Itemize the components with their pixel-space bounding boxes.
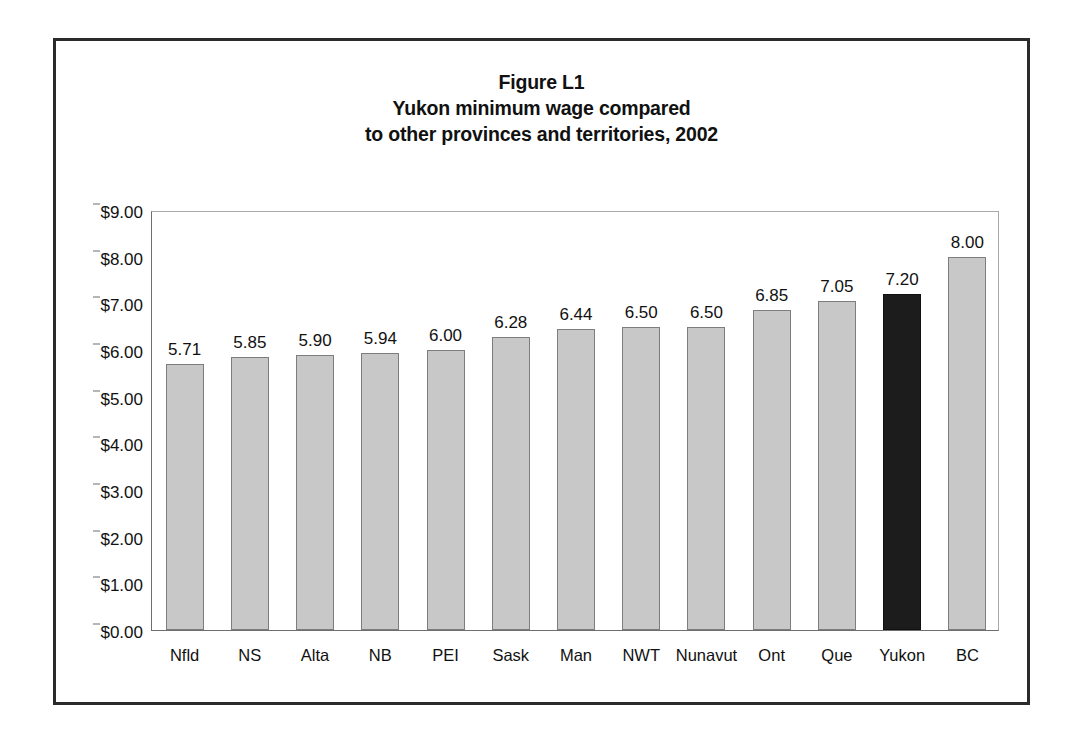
bar-series: 5.71Nfld5.85NS5.90Alta5.94NB6.00PEI6.28S… bbox=[152, 212, 998, 630]
chart-title-line-2: Yukon minimum wage compared bbox=[56, 95, 1027, 121]
bar[interactable] bbox=[427, 350, 465, 630]
bar-value-label: 7.20 bbox=[886, 271, 919, 288]
bar-group: 6.50Nunavut bbox=[674, 212, 739, 630]
x-axis-category-label: NWT bbox=[622, 647, 660, 664]
bar-value-label: 5.90 bbox=[299, 332, 332, 349]
bar-group: 7.20Yukon bbox=[870, 212, 935, 630]
x-axis-category-label: Nunavut bbox=[676, 647, 737, 664]
figure-page-frame: Figure L1 Yukon minimum wage compared to… bbox=[53, 38, 1030, 705]
bar-group: 5.90Alta bbox=[282, 212, 347, 630]
y-axis-tick-mark bbox=[93, 250, 100, 251]
y-axis-tick-mark bbox=[93, 390, 100, 391]
bar[interactable] bbox=[622, 327, 660, 630]
x-axis-category-label: PEI bbox=[432, 647, 459, 664]
x-axis-category-label: Que bbox=[821, 647, 852, 664]
bar[interactable] bbox=[883, 294, 921, 630]
chart-title: Figure L1 Yukon minimum wage compared to… bbox=[56, 69, 1027, 147]
y-axis-tick-mark bbox=[93, 577, 100, 578]
plot-area: $0.00$1.00$2.00$3.00$4.00$5.00$6.00$7.00… bbox=[151, 211, 999, 631]
chart-title-line-1: Figure L1 bbox=[56, 69, 1027, 95]
x-axis-category-label: Man bbox=[560, 647, 592, 664]
bar-value-label: 6.00 bbox=[429, 327, 462, 344]
y-axis-tick-mark bbox=[93, 624, 100, 625]
bar-group: 5.71Nfld bbox=[152, 212, 217, 630]
bar[interactable] bbox=[687, 327, 725, 630]
bar-value-label: 5.71 bbox=[168, 341, 201, 358]
y-axis-tick-label: $7.00 bbox=[100, 297, 152, 314]
x-axis-category-label: Sask bbox=[492, 647, 529, 664]
bar-value-label: 6.44 bbox=[559, 306, 592, 323]
bar-group: 8.00BC bbox=[935, 212, 1000, 630]
bar-value-label: 7.05 bbox=[820, 278, 853, 295]
y-axis-tick-label: $1.00 bbox=[100, 577, 152, 594]
y-axis-tick-mark bbox=[93, 344, 100, 345]
bar-group: 6.28Sask bbox=[478, 212, 543, 630]
y-axis-tick-label: $0.00 bbox=[100, 624, 152, 641]
y-axis-tick-mark bbox=[93, 204, 100, 205]
y-axis-tick-mark bbox=[93, 484, 100, 485]
bar-value-label: 5.94 bbox=[364, 330, 397, 347]
y-axis-tick-mark bbox=[93, 437, 100, 438]
x-axis-category-label: NS bbox=[238, 647, 261, 664]
x-axis-category-label: Yukon bbox=[879, 647, 925, 664]
x-axis-category-label: BC bbox=[956, 647, 979, 664]
y-axis-tick-mark bbox=[93, 297, 100, 298]
bar-group: 7.05Que bbox=[804, 212, 869, 630]
x-axis-category-label: Nfld bbox=[170, 647, 199, 664]
y-axis-tick-label: $5.00 bbox=[100, 390, 152, 407]
bar[interactable] bbox=[948, 257, 986, 630]
y-axis-tick-label: $9.00 bbox=[100, 204, 152, 221]
bar-group: 5.85NS bbox=[217, 212, 282, 630]
bar[interactable] bbox=[818, 301, 856, 630]
bar-group: 6.44Man bbox=[543, 212, 608, 630]
y-axis-tick-mark bbox=[93, 530, 100, 531]
bar-value-label: 5.85 bbox=[233, 334, 266, 351]
bar-group: 5.94NB bbox=[348, 212, 413, 630]
bar[interactable] bbox=[753, 310, 791, 630]
bar[interactable] bbox=[166, 364, 204, 630]
y-axis-tick-label: $6.00 bbox=[100, 344, 152, 361]
x-axis-category-label: Ont bbox=[758, 647, 785, 664]
x-axis-category-label: Alta bbox=[301, 647, 329, 664]
bar-value-label: 8.00 bbox=[951, 234, 984, 251]
bar-group: 6.50NWT bbox=[609, 212, 674, 630]
bar-value-label: 6.28 bbox=[494, 314, 527, 331]
bar-group: 6.00PEI bbox=[413, 212, 478, 630]
chart-title-line-3: to other provinces and territories, 2002 bbox=[56, 121, 1027, 147]
bar-value-label: 6.85 bbox=[755, 287, 788, 304]
y-axis-tick-label: $4.00 bbox=[100, 437, 152, 454]
bar-group: 6.85Ont bbox=[739, 212, 804, 630]
y-axis-tick-label: $2.00 bbox=[100, 530, 152, 547]
y-axis-tick-label: $3.00 bbox=[100, 484, 152, 501]
bar[interactable] bbox=[361, 353, 399, 630]
bar-value-label: 6.50 bbox=[690, 304, 723, 321]
x-axis-category-label: NB bbox=[369, 647, 392, 664]
y-axis-tick-label: $8.00 bbox=[100, 250, 152, 267]
bar[interactable] bbox=[557, 329, 595, 630]
bar-value-label: 6.50 bbox=[625, 304, 658, 321]
bar[interactable] bbox=[296, 355, 334, 630]
bar[interactable] bbox=[231, 357, 269, 630]
bar[interactable] bbox=[492, 337, 530, 630]
